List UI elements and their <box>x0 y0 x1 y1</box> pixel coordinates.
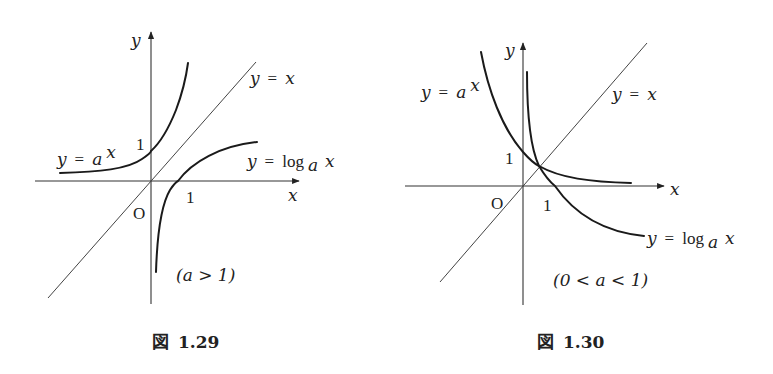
identity-label: y = x <box>611 84 657 104</box>
x-axis-label: x <box>670 179 680 199</box>
y-tick-one-label: 1 <box>505 149 514 168</box>
figure-symbol: 図 <box>537 332 554 352</box>
origin-label: O <box>133 204 145 223</box>
y-axis-label: y <box>504 40 515 60</box>
origin-label: O <box>491 194 503 213</box>
y-axis-label: y <box>130 30 141 50</box>
figure-canvas: y x O 1 1 y = a x y = x y = log a x (a >… <box>0 0 773 374</box>
identity-line <box>48 62 256 298</box>
figure-symbol: 図 <box>152 332 169 352</box>
figure-caption: 図 1.29 <box>152 332 219 352</box>
exponential-label: y = a x <box>420 75 480 102</box>
figure-1-29: y x O 1 1 y = a x y = x y = log a x (a >… <box>35 30 335 352</box>
logarithm-label: y = log a x <box>246 151 335 175</box>
identity-label: y = x <box>249 68 295 88</box>
figure-caption: 図 1.30 <box>537 332 604 352</box>
condition-label: (0 < a < 1) <box>553 270 648 290</box>
logarithm-curve <box>156 142 257 272</box>
x-axis-label: x <box>288 185 298 205</box>
condition-label: (a > 1) <box>176 265 235 285</box>
x-tick-one-label: 1 <box>186 188 195 207</box>
x-tick-one-label: 1 <box>543 196 552 215</box>
logarithm-label: y = log a x <box>646 228 735 252</box>
y-tick-one-label: 1 <box>136 135 145 154</box>
exponential-curve <box>481 52 631 183</box>
exponential-label: y = a x <box>56 142 116 169</box>
figure-1-30: y x O 1 1 y = a x y = x y = log a x (0 <… <box>405 40 735 352</box>
